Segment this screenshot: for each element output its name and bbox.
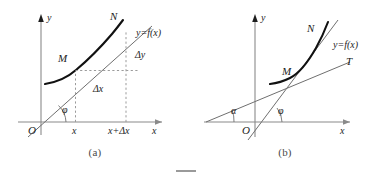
panel-b: M N y=f(x) T α φ O x y (b) [190,0,380,177]
panel-a-diagram: M N y=f(x) Δy Δx φ O x x+Δx x y [0,0,190,145]
label-point-n-b: N [306,22,315,34]
label-tick-x-a: x [71,125,77,136]
label-angle-alpha-b: α [231,105,237,116]
label-origin-b: O [242,124,250,136]
caption-panel-a: (a) [0,146,190,158]
label-angle-phi-b: φ [278,105,284,116]
page-edge-artifact [176,170,196,172]
label-delta-x-a: Δx [92,83,104,94]
figure-root: M N y=f(x) Δy Δx φ O x x+Δx x y (a) [0,0,380,177]
label-tangent-b: T [346,55,353,67]
panel-b-diagram: M N y=f(x) T α φ O x y [190,0,380,145]
label-point-n-a: N [109,10,118,22]
label-x-axis-b: x [339,125,345,136]
label-x-axis-a: x [151,125,157,136]
label-function-b: y=f(x) [332,39,359,51]
label-y-axis-b: y [260,12,266,23]
label-point-m-a: M [57,52,68,64]
label-point-m-b: M [281,65,292,77]
panel-a: M N y=f(x) Δy Δx φ O x x+Δx x y (a) [0,0,190,177]
label-tick-x-plus-dx-a: x+Δx [107,125,130,136]
y-axis-b [252,14,258,137]
function-curve-a [45,20,123,84]
label-y-axis-a: y [46,12,52,23]
label-delta-y-a: Δy [134,49,146,60]
x-axis-a [18,119,162,125]
label-angle-phi-a: φ [62,104,68,115]
x-axis-b [204,119,350,125]
label-origin-a: O [28,124,36,136]
label-function-a: y=f(x) [135,27,162,39]
y-axis-a [38,14,44,135]
caption-panel-b: (b) [190,146,380,158]
secant-line-a [28,26,152,137]
